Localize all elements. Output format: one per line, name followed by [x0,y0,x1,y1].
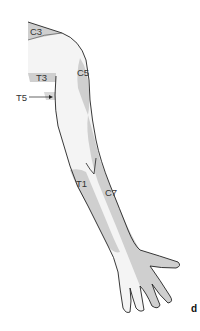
label-t5: T5 [16,92,27,103]
arm-dermatome-diagram: C3 C5 T3 T5 T1 C7 d [0,0,200,331]
label-t3: T3 [36,72,47,83]
label-c5: C5 [77,67,89,78]
panel-label: d [191,303,197,314]
label-c3: C3 [30,26,42,37]
label-t1: T1 [76,178,87,189]
label-c7: C7 [105,187,117,198]
